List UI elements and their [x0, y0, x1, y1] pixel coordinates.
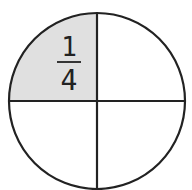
- fraction-circle-diagram: 1 4: [0, 0, 192, 190]
- shaded-quarter: [9, 13, 97, 101]
- fraction-denominator: 4: [61, 64, 78, 97]
- fraction-numerator: 1: [61, 32, 77, 62]
